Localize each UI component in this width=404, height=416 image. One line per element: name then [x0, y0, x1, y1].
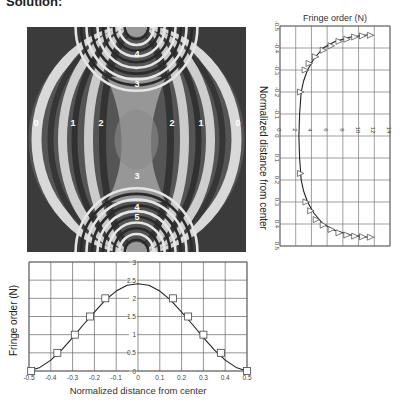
data-marker-triangle	[313, 217, 320, 223]
data-marker-triangle	[367, 32, 374, 38]
right-chart-ylabel: Normalized distance from center	[258, 86, 269, 230]
x-tick-label: -0.4	[45, 374, 57, 381]
data-marker-square	[71, 331, 78, 338]
bottom-chart: -0.5-0.4-0.3-0.2-0.100.10.20.30.40.500.5…	[0, 256, 260, 416]
data-marker-triangle	[360, 234, 367, 240]
y-tick-label: 0	[274, 134, 280, 138]
x-tick-label: 12	[370, 127, 376, 134]
solution-heading: Solution:	[6, 0, 62, 9]
bottom-chart-xlabel: Normalized distance from center	[70, 385, 207, 396]
y-tick-label: 2.5	[127, 277, 136, 284]
fringe-order-label: 2	[169, 118, 174, 128]
fringe-order-label: 2	[98, 118, 103, 128]
y-tick-label: -0.4	[274, 43, 280, 54]
x-tick-label: -0.1	[111, 374, 123, 381]
x-tick-label: 6	[323, 128, 329, 132]
x-tick-label: 0	[276, 128, 282, 132]
x-tick-label: 0.2	[177, 374, 186, 381]
data-marker-square	[87, 313, 94, 320]
data-marker-triangle	[336, 230, 343, 236]
right-chart-title: Fringe order (N)	[303, 13, 367, 23]
y-tick-label: -0.2	[274, 87, 280, 98]
fringe-order-label: 3	[134, 171, 139, 181]
data-marker-square	[185, 313, 192, 320]
data-marker-triangle	[352, 233, 359, 239]
fringe-image: 01221043345	[27, 27, 246, 252]
data-marker-triangle	[344, 232, 351, 238]
y-tick-label: 0.2	[274, 176, 280, 185]
photoelastic-fringe-pattern: 01221043345	[27, 27, 246, 252]
fringe-order-label: 0	[33, 118, 38, 128]
right-chart: -0.5-0.4-0.3-0.2-0.100.10.20.30.40.50246…	[262, 8, 404, 258]
bottom-chart-ylabel: Fringe order (N)	[8, 285, 19, 356]
data-marker-square	[169, 295, 176, 302]
bottom-chart-plot: -0.5-0.4-0.3-0.2-0.100.10.20.30.40.500.5…	[0, 256, 260, 416]
y-tick-label: 1.5	[127, 313, 136, 320]
data-marker-square	[244, 368, 251, 375]
data-marker-square	[54, 349, 61, 356]
x-tick-label: 0	[136, 374, 140, 381]
data-marker-triangle	[367, 234, 374, 240]
y-tick-label: -0.1	[274, 109, 280, 120]
x-tick-label: 0.3	[199, 374, 208, 381]
fringe-order-label: 4	[134, 49, 139, 59]
y-tick-label: 1	[132, 331, 136, 338]
fringe-order-label: 4	[134, 202, 139, 212]
y-tick-label: 0.5	[127, 349, 136, 356]
y-tick-label: 0.4	[274, 220, 280, 229]
y-tick-label: 0.5	[274, 242, 280, 251]
data-marker-square	[102, 295, 109, 302]
x-tick-label: 4	[307, 128, 313, 132]
x-tick-label: -0.5	[23, 374, 35, 381]
x-tick-label: 0.4	[221, 374, 230, 381]
fringe-order-label: 1	[198, 118, 203, 128]
x-tick-label: 2	[292, 128, 298, 132]
x-tick-label: 10	[355, 127, 361, 134]
fringe-order-label: 5	[134, 212, 139, 222]
data-marker-triangle	[352, 34, 359, 40]
fringe-order-label: 0	[235, 118, 240, 128]
data-marker-triangle	[360, 33, 367, 39]
data-marker-triangle	[328, 227, 335, 233]
x-tick-label: -0.2	[89, 374, 101, 381]
x-tick-label: 0.5	[242, 374, 251, 381]
data-marker-square	[28, 368, 35, 375]
fringe-order-label: 3	[134, 79, 139, 89]
data-marker-triangle	[302, 67, 309, 73]
data-marker-square	[200, 331, 207, 338]
x-tick-label: 14	[386, 127, 392, 134]
y-tick-label: 0.3	[274, 198, 280, 207]
y-tick-label: 2	[132, 295, 136, 302]
y-tick-label: -0.5	[274, 21, 280, 32]
x-tick-label: -0.3	[67, 374, 79, 381]
x-tick-label: 0.1	[155, 374, 164, 381]
y-tick-label: 0.1	[274, 154, 280, 163]
x-tick-label: 8	[339, 128, 345, 132]
right-chart-plot: -0.5-0.4-0.3-0.2-0.100.10.20.30.40.50246…	[262, 8, 404, 258]
y-tick-label: -0.3	[274, 65, 280, 76]
fringe-order-label: 1	[70, 118, 75, 128]
data-marker-triangle	[320, 222, 327, 228]
data-marker-square	[217, 349, 224, 356]
